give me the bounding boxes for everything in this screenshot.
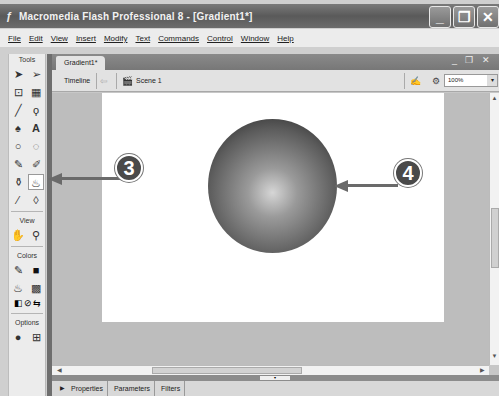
eraser-tool-icon[interactable]: ◊ <box>28 192 44 208</box>
work-area <box>52 93 489 365</box>
view-title: View <box>9 215 45 227</box>
stroke-color-icon: ✎ <box>10 262 26 278</box>
stage[interactable] <box>102 93 444 322</box>
document-tab[interactable]: Gradient1* <box>56 56 105 70</box>
divider <box>96 73 97 89</box>
text-tool-icon[interactable]: A <box>28 120 44 136</box>
line-tool-icon[interactable]: ╱ <box>10 102 26 118</box>
tab-filters[interactable]: Filters <box>161 381 185 396</box>
edit-scene-symbol-icons[interactable]: ✍ ⚙ <box>410 74 444 88</box>
selection-tool-icon[interactable]: ➤ <box>10 66 26 82</box>
tab-parameters[interactable]: Parameters <box>114 381 155 396</box>
eyedropper-tool-icon[interactable]: ⁄ <box>10 192 26 208</box>
brush-tool-icon[interactable]: ✐ <box>28 156 44 172</box>
subselection-tool-icon[interactable]: ➢ <box>28 66 44 82</box>
tools-title: Tools <box>9 54 45 66</box>
minimize-button[interactable]: _ <box>429 6 451 28</box>
fill-color-icon: ♨ <box>10 280 26 296</box>
back-arrow-icon[interactable]: ⇦ <box>100 74 108 88</box>
menu-edit[interactable]: Edit <box>29 34 43 43</box>
gap-size-icon[interactable]: ● <box>10 329 26 345</box>
menu-text[interactable]: Text <box>135 34 150 43</box>
callout-3: 3 <box>115 154 143 182</box>
menu-bar: File Edit View Insert Modify Text Comman… <box>0 29 499 47</box>
menu-view[interactable]: View <box>51 34 68 43</box>
scene-icon: 🎬 <box>122 74 133 88</box>
options-grid: ● ⊞ <box>9 329 45 345</box>
divider <box>11 211 43 212</box>
color-extras: ◧ ⊘ ⇆ <box>9 296 45 310</box>
zoom-dropdown[interactable]: 100% ▾ <box>444 74 498 87</box>
expand-arrow-icon[interactable]: ▶ <box>60 381 65 396</box>
flash-window: ƒ Macromedia Flash Professional 8 - [Gra… <box>0 0 499 396</box>
document-controls[interactable]: _ ❐ ✕ <box>452 55 493 65</box>
callout-4: 4 <box>394 159 422 187</box>
menu-control[interactable]: Control <box>207 34 233 43</box>
vertical-scrollbar[interactable]: ▲ ▼ <box>489 93 499 365</box>
splitter-grip[interactable]: ▾ <box>260 376 290 380</box>
scroll-left-icon[interactable]: ◀ <box>54 366 64 375</box>
scroll-thumb[interactable] <box>491 208 499 268</box>
divider <box>11 246 43 247</box>
menu-help[interactable]: Help <box>277 34 293 43</box>
menu-commands[interactable]: Commands <box>158 34 199 43</box>
scroll-down-icon[interactable]: ▼ <box>490 353 499 363</box>
black-white-icon[interactable]: ◧ <box>14 296 23 310</box>
hand-tool-icon[interactable]: ✋ <box>10 227 26 243</box>
divider <box>404 73 405 89</box>
window-controls: _ ❐ ✕ <box>429 6 499 28</box>
scroll-right-icon[interactable]: ▶ <box>477 366 487 375</box>
colors-grid: ✎ ■ ♨ ▩ <box>9 262 45 296</box>
pencil-tool-icon[interactable]: ✎ <box>10 156 26 172</box>
scroll-up-icon[interactable]: ▲ <box>490 95 499 105</box>
no-color-icon[interactable]: ⊘ <box>24 296 32 310</box>
menu-file[interactable]: File <box>8 34 21 43</box>
menu-modify[interactable]: Modify <box>104 34 128 43</box>
lasso-tool-icon[interactable]: ϙ <box>28 102 44 118</box>
chevron-down-icon[interactable]: ▾ <box>487 75 497 86</box>
fill-color-swatch[interactable]: ▩ <box>28 280 44 296</box>
callout-arrow-line <box>346 184 398 187</box>
divider <box>116 73 117 89</box>
tools-grid: ➤ ➢ ⊡ ▦ ╱ ϙ ♠ A ○ ◌ ✎ ✐ ⚱ ♨ ⁄ ◊ <box>9 66 45 208</box>
callout-arrow-line <box>60 177 122 180</box>
menu-window[interactable]: Window <box>241 34 269 43</box>
colors-title: Colors <box>9 250 45 262</box>
zoom-value: 100% <box>448 77 463 83</box>
restore-button[interactable]: ❐ <box>453 6 475 28</box>
lock-fill-icon[interactable]: ⊞ <box>28 329 44 345</box>
menu-insert[interactable]: Insert <box>76 34 96 43</box>
tools-panel: Tools ➤ ➢ ⊡ ▦ ╱ ϙ ♠ A ○ ◌ ✎ ✐ ⚱ ♨ ⁄ ◊ Vi… <box>8 54 46 396</box>
ink-bottle-tool-icon[interactable]: ⚱ <box>10 174 26 190</box>
timeline-button[interactable]: Timeline <box>60 74 94 88</box>
oval-tool-icon[interactable]: ○ <box>10 138 26 154</box>
window-title: Macromedia Flash Professional 8 - [Gradi… <box>19 11 253 22</box>
close-button[interactable]: ✕ <box>477 6 499 28</box>
swap-colors-icon[interactable]: ⇆ <box>33 296 41 310</box>
flash-icon: ƒ <box>6 4 12 28</box>
options-title: Options <box>9 317 45 329</box>
horizontal-scrollbar[interactable]: ◀ ▶ <box>52 365 489 375</box>
stroke-color-swatch[interactable]: ■ <box>28 262 44 278</box>
gradient-transform-tool-icon[interactable]: ▦ <box>28 84 44 100</box>
title-bar: ƒ Macromedia Flash Professional 8 - [Gra… <box>0 4 499 28</box>
view-grid: ✋ ⚲ <box>9 227 45 243</box>
edit-bar: Timeline ⇦ 🎬 Scene 1 ✍ ⚙ 100% ▾ <box>52 70 499 92</box>
paint-bucket-tool-icon[interactable]: ♨ <box>28 174 44 190</box>
pen-tool-icon[interactable]: ♠ <box>10 120 26 136</box>
zoom-tool-icon[interactable]: ⚲ <box>28 227 44 243</box>
tab-properties[interactable]: Properties <box>71 381 108 396</box>
scene-label: Scene 1 <box>136 74 162 88</box>
gradient-sphere[interactable] <box>208 119 337 253</box>
properties-panel-bar: ▶ Properties Parameters Filters <box>52 381 499 396</box>
scroll-thumb[interactable] <box>152 367 302 374</box>
document-window: Gradient1* _ ❐ ✕ Timeline ⇦ 🎬 Scene 1 ✍ … <box>52 54 499 396</box>
rectangle-tool-icon[interactable]: ◌ <box>28 138 44 154</box>
document-tab-strip: Gradient1* _ ❐ ✕ <box>52 54 499 70</box>
free-transform-tool-icon[interactable]: ⊡ <box>10 84 26 100</box>
divider <box>11 313 43 314</box>
